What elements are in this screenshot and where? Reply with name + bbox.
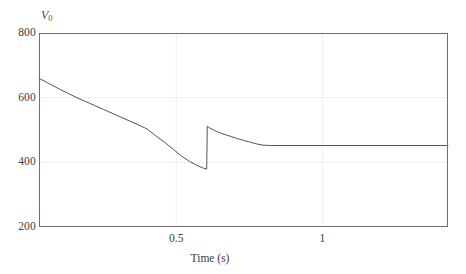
x-tick-label: 1 [320,232,326,244]
chart-figure: V0 800 600 400 200 0.5 1 Time (s) [0,0,466,274]
x-axis-title-text: Time (s) [191,252,230,264]
x-tick-label: 0.5 [169,232,183,244]
plot-frame [39,33,448,227]
x-axis-title: Time (s) [0,252,466,264]
